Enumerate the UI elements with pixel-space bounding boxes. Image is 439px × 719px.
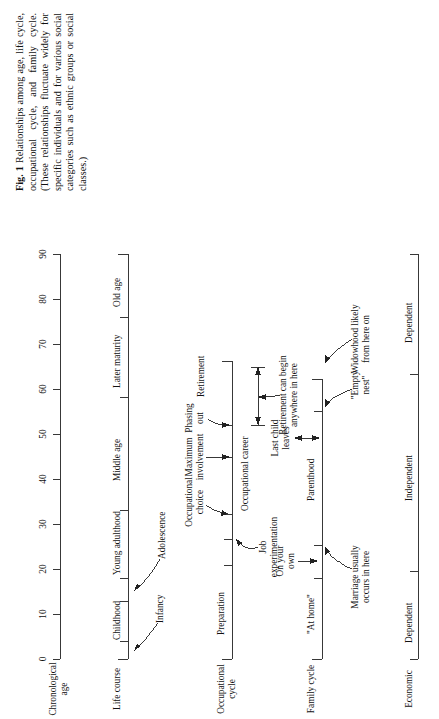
diagram-linework	[0, 214, 439, 719]
figure-diagram: Chronological age 0 10 20 30 40 50 60 70…	[0, 214, 439, 719]
occupational-row-name-line1: Occupational	[216, 664, 226, 714]
axis-tick-20: 20	[38, 560, 48, 578]
family-note-on-your-own: On your own	[275, 536, 296, 586]
life-course-segment-childhood: Childhood	[112, 601, 123, 640]
row-label-chronological-age: Chronological age	[48, 661, 69, 717]
phasing-line2: out	[195, 412, 205, 424]
figure-page: Chronological age 0 10 20 30 40 50 60 70…	[0, 0, 439, 719]
on-own-line1: On your	[275, 546, 285, 577]
max-involve-line2: involvement	[195, 434, 205, 480]
axis-tick-10: 10	[38, 605, 48, 623]
economic-segment-independent: Independent	[404, 455, 415, 501]
last-child-line2: leaves	[281, 426, 291, 449]
life-course-segment-young-adulthood: Young adulthood	[112, 511, 123, 575]
life-course-segment-later-maturity: Later maturity	[112, 335, 123, 388]
axis-name-line1: Chronological	[48, 662, 58, 715]
job-exp-line1: Job	[258, 541, 268, 554]
widow-line2: from here on	[361, 315, 371, 363]
row-label-economic: Economic	[404, 661, 415, 717]
life-course-note-adolescence: Adolescence	[157, 512, 168, 560]
marriage-line1: Marriage usually	[350, 545, 360, 608]
occupational-segment-career: Occupational career	[240, 436, 251, 511]
occupational-note-phasing-out: Phasing out	[184, 396, 205, 440]
last-child-line1: Last child	[270, 420, 280, 457]
axis-tick-90: 90	[38, 245, 48, 263]
family-segment-at-home: "At home"	[306, 594, 317, 634]
axis-tick-80: 80	[38, 290, 48, 308]
figure-caption: Fig. 1 Relationships among age, life cyc…	[14, 13, 90, 191]
life-course-segment-middle-age: Middle age	[112, 439, 123, 481]
phasing-line1: Phasing	[184, 403, 194, 432]
occupational-row-name-line2: cycle	[227, 679, 237, 699]
family-note-last-child-leaves: Last child leaves	[270, 409, 291, 467]
axis-tick-30: 30	[38, 515, 48, 533]
family-note-widowhood: Widowhood likely from here on	[350, 293, 371, 385]
life-course-segment-old-age: Old age	[112, 278, 123, 307]
row-label-life-course: Life course	[112, 661, 123, 717]
row-label-occupational-cycle: Occupational cycle	[216, 661, 237, 717]
axis-name-line2: age	[59, 683, 69, 696]
figure-number: Fig. 1	[14, 166, 25, 191]
economic-segment-dependent-late: Dependent	[404, 303, 415, 343]
on-own-line2: own	[286, 553, 296, 569]
marriage-line2: occurs in here	[361, 551, 371, 603]
family-note-marriage: Marriage usually occurs in here	[350, 531, 371, 623]
family-segment-parenthood: Parenthood	[306, 459, 317, 501]
axis-tick-40: 40	[38, 470, 48, 488]
occ-choice-line2: choice	[195, 490, 205, 514]
max-involve-line1: Maximum	[184, 438, 194, 477]
axis-tick-70: 70	[38, 335, 48, 353]
life-course-note-infancy: Infancy	[155, 595, 166, 623]
figure-caption-text: Relationships among age, life cycle, occ…	[14, 13, 88, 191]
occupational-note-retirement: Retirement	[196, 356, 207, 397]
axis-tick-0: 0	[38, 650, 48, 668]
occupational-segment-preparation: Preparation	[216, 592, 227, 635]
axis-tick-60: 60	[38, 380, 48, 398]
row-label-family-cycle: Family cycle	[306, 661, 317, 717]
axis-tick-50: 50	[38, 425, 48, 443]
economic-segment-dependent-early: Dependent	[404, 603, 415, 643]
widow-line1: Widowhood likely	[350, 304, 360, 373]
